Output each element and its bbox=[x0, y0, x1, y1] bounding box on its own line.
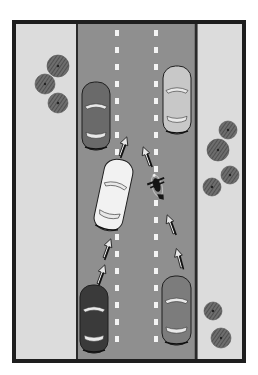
lane-dash bbox=[154, 149, 158, 155]
car-bottom-right-car-icon bbox=[162, 276, 191, 345]
lane-dash bbox=[154, 98, 158, 104]
lane-dash bbox=[154, 81, 158, 87]
lane-dash bbox=[115, 251, 119, 257]
tree-icon bbox=[48, 93, 68, 113]
lane-dash bbox=[115, 234, 119, 240]
lane-dash bbox=[115, 132, 119, 138]
lane-dash bbox=[115, 47, 119, 53]
lane-dash bbox=[154, 47, 158, 53]
lane-dash bbox=[115, 98, 119, 104]
lane-dash bbox=[115, 81, 119, 87]
lane-dash bbox=[115, 268, 119, 274]
tree-icon bbox=[203, 178, 221, 196]
tree-icon bbox=[221, 166, 239, 184]
tree-icon bbox=[207, 139, 229, 161]
lane-dash bbox=[154, 302, 158, 308]
lane-dash bbox=[154, 234, 158, 240]
lane-dash bbox=[154, 319, 158, 325]
tree-icon bbox=[47, 55, 69, 77]
lane-dash bbox=[115, 302, 119, 308]
lane-dash bbox=[115, 149, 119, 155]
lane-dash bbox=[154, 166, 158, 172]
car-top-right-car-icon bbox=[163, 66, 191, 134]
tree-icon bbox=[211, 328, 231, 348]
lane-dash bbox=[115, 30, 119, 36]
lane-dash bbox=[115, 115, 119, 121]
lane-dash bbox=[154, 30, 158, 36]
lane-dash bbox=[115, 64, 119, 70]
lane-dash bbox=[154, 251, 158, 257]
lane-dash bbox=[154, 115, 158, 121]
lane-dash bbox=[154, 217, 158, 223]
lane-dash bbox=[154, 64, 158, 70]
road-scene-canvas bbox=[0, 0, 258, 375]
tree-icon bbox=[219, 121, 237, 139]
lane-dash bbox=[154, 132, 158, 138]
lane-dash bbox=[154, 336, 158, 342]
lane-dash bbox=[115, 336, 119, 342]
car-top-left-car-icon bbox=[82, 82, 110, 150]
lane-dash bbox=[154, 285, 158, 291]
car-bottom-left-car-icon bbox=[80, 285, 108, 353]
lane-dash bbox=[115, 319, 119, 325]
road-scene-diagram bbox=[0, 0, 258, 375]
lane-dash bbox=[154, 200, 158, 206]
lane-dash bbox=[154, 268, 158, 274]
lane-dash bbox=[115, 285, 119, 291]
tree-icon bbox=[204, 302, 222, 320]
tree-icon bbox=[35, 74, 55, 94]
